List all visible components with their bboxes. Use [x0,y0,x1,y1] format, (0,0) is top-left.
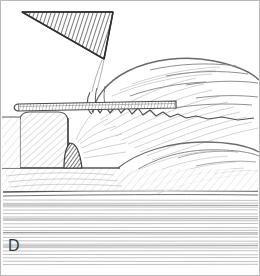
hatched-triangle-wedge [22,12,113,59]
triangle-tip-connection [92,60,104,92]
ground-line-hatching [1,190,259,270]
panel-label: D [8,238,20,254]
horizontal-blade-plate [14,101,176,111]
figure-panel: D [0,0,260,276]
figure-illustration [0,0,260,276]
radiating-strokes [76,112,126,158]
